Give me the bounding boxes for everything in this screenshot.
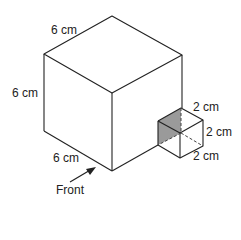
small-cube-right-label: 2 cm <box>206 126 232 138</box>
big-cube-bottom-label: 6 cm <box>53 152 79 164</box>
big-cube-top-label: 6 cm <box>51 24 77 36</box>
big-cube-right-bottom <box>112 145 158 171</box>
small-cube-top-label: 2 cm <box>193 101 219 113</box>
small-cube-shaded-face <box>158 108 181 145</box>
front-label: Front <box>56 184 84 196</box>
small-cube-bottom-label: 2 cm <box>193 150 219 162</box>
big-cube-left-label: 6 cm <box>12 87 38 99</box>
small-cube-hidden-edge <box>181 133 203 146</box>
arrow-head-icon <box>86 167 96 175</box>
small-cube-edge <box>180 120 203 133</box>
